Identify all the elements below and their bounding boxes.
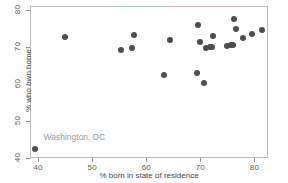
scatter-plot-figure: % born in state of residence % who own h… [0, 0, 288, 183]
x-tick [146, 158, 147, 162]
data-point [230, 42, 236, 48]
y-tick-label: 70 [13, 39, 22, 53]
data-point [118, 47, 124, 53]
y-tick [26, 158, 30, 159]
data-point [131, 32, 137, 38]
data-point [210, 33, 216, 39]
data-point [249, 31, 255, 37]
data-point [240, 35, 246, 41]
x-axis-label: % born in state of residence [30, 171, 268, 180]
data-point [233, 26, 239, 32]
data-point [209, 44, 215, 50]
data-point [62, 34, 68, 40]
y-tick [26, 121, 30, 122]
x-tick-label: 50 [80, 163, 104, 172]
data-point [195, 22, 201, 28]
data-point [161, 72, 167, 78]
x-tick [38, 158, 39, 162]
y-tick [26, 47, 30, 48]
x-tick-label: 70 [188, 163, 212, 172]
x-tick-label: 80 [242, 163, 266, 172]
y-tick-label: 50 [13, 113, 22, 127]
data-point [201, 80, 207, 86]
data-point [231, 16, 237, 22]
y-tick-label: 60 [13, 76, 22, 90]
y-tick [26, 84, 30, 85]
y-tick-label: 40 [13, 151, 22, 165]
data-point [197, 39, 203, 45]
data-point [129, 45, 135, 51]
x-tick [254, 158, 255, 162]
y-tick [26, 10, 30, 11]
y-axis-label: % who own home [24, 21, 33, 141]
data-point [194, 70, 200, 76]
data-point [167, 37, 173, 43]
y-tick-label: 80 [13, 2, 22, 16]
data-point [259, 27, 265, 33]
x-tick [92, 158, 93, 162]
annotation-washington-dc: Washington, DC [44, 132, 106, 142]
x-tick-label: 60 [134, 163, 158, 172]
data-point-washington-dc [32, 146, 38, 152]
x-tick-label: 40 [26, 163, 50, 172]
x-tick [200, 158, 201, 162]
